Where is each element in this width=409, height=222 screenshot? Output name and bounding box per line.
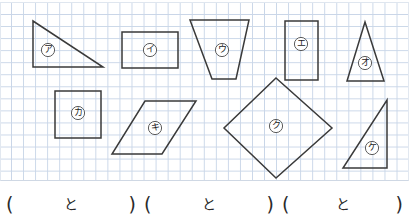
close-paren: ) [267,195,274,214]
shape-o-label-circle [358,56,371,69]
shape-ka-label-circle [71,106,84,119]
shape-a-label-circle [41,43,54,56]
open-paren: ( [6,195,13,214]
conjunction-to: と [336,197,350,211]
answer-row: ( と ) ( と ) ( と ) [0,186,409,222]
shape-a [33,21,103,67]
close-paren: ) [396,195,403,214]
shape-ki-label-circle [148,121,161,134]
open-paren: ( [144,195,151,214]
open-paren: ( [282,195,289,214]
answer-blank-2[interactable]: ( と ) [140,189,278,219]
worksheet-root: アイウエオカキクケ ( と ) ( と ) ( と ) [0,0,409,222]
conjunction-to: と [64,197,78,211]
answer-blank-3[interactable]: ( と ) [278,189,409,219]
close-paren: ) [129,195,136,214]
shape-e-label-circle [294,37,307,50]
shape-ke-label-circle [365,141,378,154]
shape-ke [343,100,387,168]
conjunction-to: と [202,197,216,211]
answer-blank-1[interactable]: ( と ) [0,189,140,219]
shape-ku-label-circle [269,119,282,132]
shape-o [347,22,384,81]
shape-i-label-circle [143,43,156,56]
shape-u-label-circle [215,43,228,56]
